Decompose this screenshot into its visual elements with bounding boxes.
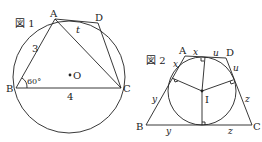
fig1-point-C: C [123, 83, 131, 94]
fig1-angle-B: 60° [27, 77, 41, 86]
diagonal-AC [55, 19, 121, 88]
fig2-tangent-AD-right: u [213, 48, 219, 58]
radius-to-AD [202, 57, 205, 91]
figure-1 [13, 19, 125, 133]
fig1-point-A: A [49, 8, 58, 19]
fig2-point-A: A [178, 45, 187, 56]
right-angle-AD [201, 58, 204, 61]
fig1-side-AB: 3 [32, 43, 38, 54]
radius-to-CD [202, 80, 233, 91]
incenter-I-dot [201, 90, 204, 93]
fig2-tangent-BC-right: z [227, 126, 233, 136]
geometry-diagram: 図 1 A D B C O 3 4 t 60° 図 2 A D B C I x … [0, 0, 262, 142]
fig2-tangent-AB-bottom: y [151, 94, 158, 104]
fig1-point-O: O [73, 70, 81, 81]
fig1-point-D: D [95, 12, 103, 23]
fig2-tangent-BC-left: y [165, 126, 172, 136]
radius-to-AB [172, 78, 202, 91]
fig2-tangent-AB-top: x [173, 59, 178, 69]
fig1-point-B: B [6, 83, 13, 94]
right-angle-CD [230, 81, 234, 84]
fig2-tangent-CD-bottom: z [244, 94, 250, 104]
fig2-tangent-CD-top: u [233, 63, 239, 73]
fig2-tangent-AD-left: x [193, 47, 198, 57]
fig1-side-AD: t [76, 24, 81, 35]
fig2-point-C: C [253, 121, 261, 132]
fig1-side-BC: 4 [67, 91, 73, 102]
fig2-point-D: D [226, 47, 234, 58]
fig2-point-I: I [205, 94, 209, 105]
center-O-dot [69, 74, 72, 77]
fig2-point-B: B [136, 121, 143, 132]
fig2-label: 図 2 [146, 55, 166, 66]
fig1-label: 図 1 [15, 18, 35, 29]
